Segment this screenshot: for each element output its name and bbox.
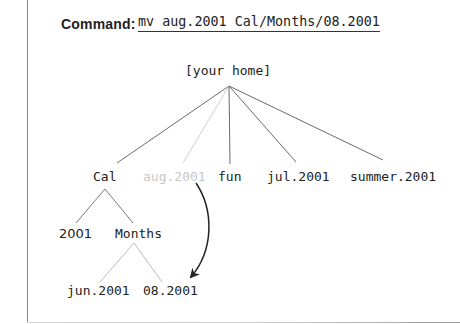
node-2001: 2001 [59, 226, 92, 241]
node-months: Months [115, 226, 162, 241]
node-root: [your home] [185, 63, 271, 78]
node-jun: jun.2001 [67, 283, 130, 298]
edge-root-aug [183, 86, 229, 163]
edge-cal-months [105, 189, 133, 223]
edge-months-08 [134, 243, 162, 282]
node-fun: fun [218, 169, 241, 184]
edge-root-summer [229, 86, 383, 160]
move-arrow [191, 183, 209, 277]
node-08-2001: 08.2001 [143, 283, 198, 298]
edge-root-jul [229, 86, 296, 162]
edge-months-jun [100, 243, 134, 282]
tree-edges [0, 0, 460, 324]
edge-root-fun [229, 86, 230, 164]
node-cal: Cal [93, 169, 116, 184]
node-jul: jul.2001 [267, 169, 330, 184]
edge-root-cal [117, 86, 229, 163]
node-summer: summer.2001 [350, 169, 436, 184]
edge-cal-2001 [76, 189, 105, 223]
node-aug-original: aug.2001 [143, 169, 206, 184]
